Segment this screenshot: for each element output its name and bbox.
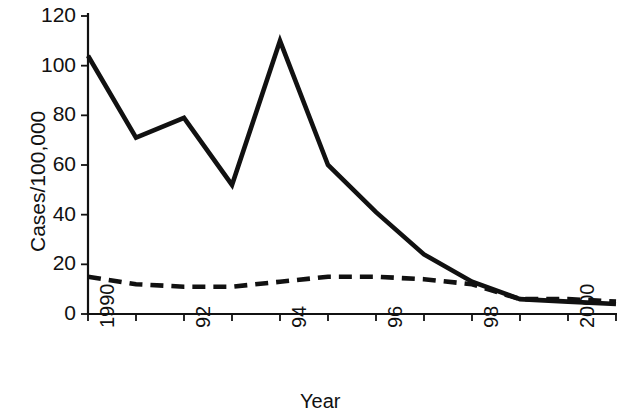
chart-series-group	[88, 41, 616, 304]
line-chart-plot	[0, 0, 617, 413]
x-tick-label: 96	[384, 306, 407, 328]
y-tick-label: 40	[53, 202, 76, 226]
x-tick-label: 92	[192, 306, 215, 328]
series-line-dashed	[88, 277, 616, 302]
x-tick-label: 2000	[576, 284, 599, 329]
x-tick-label: 1990	[96, 284, 119, 329]
x-axis-label: Year	[300, 390, 340, 413]
y-tick-label: 120	[41, 3, 76, 27]
axis-lines	[88, 14, 616, 314]
y-tick-label: 80	[53, 102, 76, 126]
y-tick-label: 100	[41, 53, 76, 77]
x-tick-label: 98	[480, 306, 503, 328]
y-tick-label: 60	[53, 152, 76, 176]
y-tick-label: 20	[53, 251, 76, 275]
x-tick-label: 94	[288, 306, 311, 328]
y-tick-label: 0	[64, 301, 76, 325]
y-axis-label: Cases/100,000	[26, 111, 50, 252]
chart-figure: Cases/100,000 020406080100120 1990929496…	[0, 0, 617, 413]
series-line-solid	[88, 41, 616, 304]
